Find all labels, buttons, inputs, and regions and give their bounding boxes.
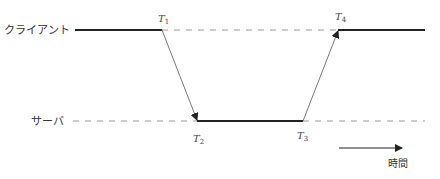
response-arrow: [303, 31, 338, 121]
timing-diagram: クライアント サーバ T1 T2 T3 T4 時間: [0, 0, 440, 179]
t4-label: T4: [335, 11, 347, 24]
request-arrow: [162, 30, 197, 120]
server-lane: サーバ: [31, 115, 425, 128]
time-axis-label: 時間: [388, 158, 408, 169]
client-lane: クライアント: [4, 24, 425, 37]
t3-label: T3: [297, 130, 308, 143]
t2-label: T2: [193, 133, 204, 146]
t1-label: T1: [158, 13, 169, 26]
client-label: クライアント: [4, 24, 70, 37]
server-label: サーバ: [31, 115, 64, 128]
